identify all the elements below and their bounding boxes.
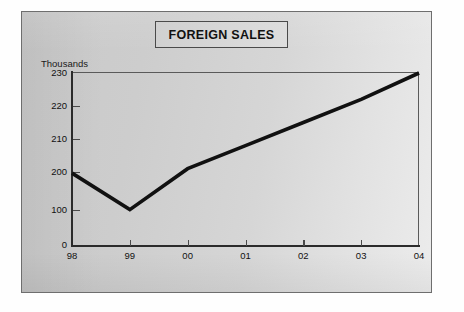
y-axis-labels: 0100200210220230 [36, 0, 67, 312]
chart-title-box: FOREIGN SALES [155, 21, 288, 48]
y-axis-tick-label: 210 [51, 133, 67, 144]
x-axis-tick [188, 240, 189, 246]
y-axis-tick-label: 200 [51, 166, 67, 177]
chart-page: FOREIGN SALES Thousands 0100200210220230… [0, 0, 464, 312]
y-axis-tick [73, 210, 80, 211]
x-axis-tick-label: 01 [240, 250, 251, 261]
x-axis-tick-label: 03 [356, 250, 367, 261]
x-axis-tick [303, 240, 304, 246]
y-axis-tick [73, 172, 80, 173]
y-axis-tick [73, 106, 80, 107]
x-axis-tick-label: 00 [182, 250, 193, 261]
y-axis-tick-label: 0 [62, 239, 67, 250]
x-axis-tick [361, 240, 362, 246]
y-axis-tick [73, 139, 80, 140]
x-axis-tick-label: 99 [125, 250, 136, 261]
y-axis-tick-label: 230 [51, 67, 67, 78]
x-axis-tick-label: 04 [414, 250, 425, 261]
page-title: FOREIGN SALES [169, 28, 275, 42]
x-axis-tick [130, 240, 131, 246]
x-axis-tick-label: 02 [298, 250, 309, 261]
x-axis-tick [246, 240, 247, 246]
y-axis-tick-label: 100 [51, 204, 67, 215]
y-axis-tick-label: 220 [51, 100, 67, 111]
x-axis-tick-label: 98 [67, 250, 78, 261]
y-axis-line [71, 71, 73, 247]
plot-area [72, 72, 419, 246]
